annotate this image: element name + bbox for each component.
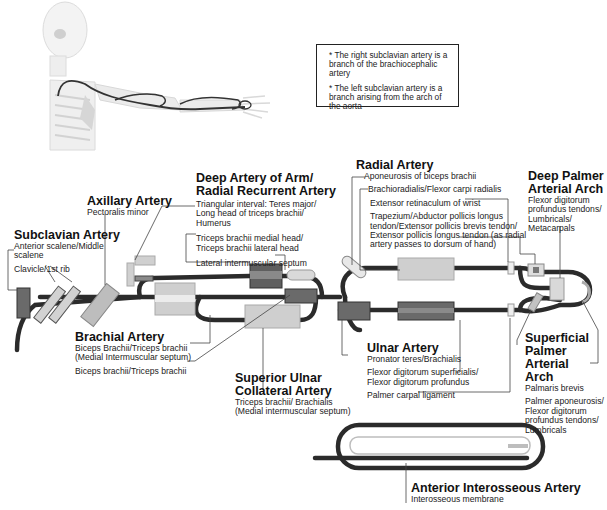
superior-ulnar-sub2: (Medial intermuscular septum) bbox=[235, 407, 351, 416]
deep-arm-sub3: Humerus bbox=[196, 219, 336, 228]
superficial-palmar-sub1: Palmaris brevis bbox=[525, 384, 607, 393]
brachial-sub2: (Medial Intermuscular septum) bbox=[75, 353, 191, 362]
radial-sub7: artery passes to dorsum of hand) bbox=[370, 240, 526, 249]
radial-sub3: Extensor retinaculum of wrist bbox=[370, 199, 526, 208]
label-superior-ulnar-collateral-artery: Superior Ulnar Collateral Artery Triceps… bbox=[235, 372, 351, 417]
superficial-palmar-sub5: Lumbricals bbox=[525, 426, 607, 435]
label-anterior-interosseous-artery: Anterior Interosseous Artery Interosseou… bbox=[411, 482, 581, 504]
note-line-right-subclavian: * The right subclavian artery is a branc… bbox=[329, 51, 452, 79]
label-deep-artery-of-arm: Deep Artery of Arm/ Radial Recurrent Art… bbox=[196, 172, 336, 268]
anterior-interosseous-diagram bbox=[338, 425, 543, 468]
axillary-sub1: Pectoralis minor bbox=[87, 208, 172, 217]
radial-sub2: Brachioradialis/Flexor carpi radialis bbox=[368, 185, 526, 194]
deep-arm-title2: Radial Recurrent Artery bbox=[196, 185, 336, 198]
label-ulnar-artery: Ulnar Artery Pronator teres/Brachialis F… bbox=[367, 342, 478, 401]
skeleton-arm-illustration bbox=[43, 2, 270, 150]
superficial-palmar-title2: Palmer Arterial bbox=[525, 345, 607, 371]
deep-arm-sub5: Triceps brachii lateral head bbox=[196, 244, 336, 253]
label-subclavian-artery: Subclavian Artery Anterior scalene/Middl… bbox=[14, 229, 120, 274]
ulnar-sub3: Flexor digitorum profundus bbox=[367, 378, 478, 387]
label-deep-palmer-arterial-arch: Deep Palmer Arterial Arch Flexor digitor… bbox=[528, 170, 604, 234]
subclavian-sub2: scalene bbox=[14, 251, 120, 260]
deep-arm-sub6: Lateral intermuscular septum bbox=[196, 259, 336, 268]
label-radial-artery: Radial Artery Aponeurosis of biceps brac… bbox=[356, 159, 526, 250]
note-box: * The right subclavian artery is a branc… bbox=[316, 44, 459, 107]
ulnar-sub1: Pronator teres/Brachialis bbox=[367, 355, 478, 364]
note-line-left-subclavian: * The left subclavian artery is a branch… bbox=[329, 84, 452, 112]
label-superficial-palmer-arterial-arch: Superficial Palmer Arterial Arch Palmari… bbox=[525, 332, 607, 435]
brachial-sub3: Biceps brachii/Triceps brachii bbox=[75, 367, 191, 376]
label-axillary-artery: Axillary Artery Pectoralis minor bbox=[87, 195, 172, 217]
anterior-interosseous-sub1: Interosseous membrane bbox=[411, 495, 581, 504]
subclavian-sub3: Clavicle/1st rib bbox=[14, 265, 120, 274]
label-brachial-artery: Brachial Artery Biceps Brachii/Triceps b… bbox=[75, 331, 191, 376]
ulnar-sub4: Palmer carpal ligament bbox=[367, 391, 478, 400]
radial-sub1: Aponeurosis of biceps brachii bbox=[364, 172, 526, 181]
deep-palmar-sub4: Metacarpals bbox=[528, 224, 604, 233]
